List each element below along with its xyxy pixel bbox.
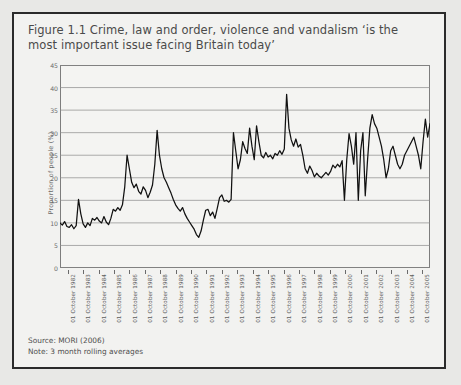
x-axis-tick [299,270,300,274]
x-axis-tick-label: 01 October 1997 [301,274,307,323]
note-line: Note: 3 month rolling averages [28,347,143,358]
x-axis-tick [407,270,408,274]
x-axis-tick [145,270,146,274]
data-series-line [60,94,430,237]
x-axis-tick [376,270,377,274]
x-axis-tick-label: 01 October 1983 [85,274,91,323]
x-axis-tick-label: 01 October 1993 [239,274,245,323]
figure-frame: Figure 1.1 Crime, law and order, violenc… [12,12,446,369]
x-axis-tick [284,270,285,274]
figure-footnotes: Source: MORI (2006) Note: 3 month rollin… [28,336,143,357]
y-axis-title: Proportion of people (%) [47,103,55,243]
chart-plot-area [60,65,430,268]
x-axis-tick [253,270,254,274]
x-axis-tick [391,270,392,274]
x-axis-tick-label: 01 October 1988 [162,274,168,323]
source-line: Source: MORI (2006) [28,336,143,347]
x-axis-tick [222,270,223,274]
x-axis-tick-label: 01 October 2004 [409,274,415,323]
x-axis-tick-label: 01 October 1992 [224,274,230,323]
x-axis-tick-label: 01 October 1986 [132,274,138,323]
x-axis-tick-label: 01 October 1987 [147,274,153,323]
x-axis-tick-label: 01 October 2001 [363,274,369,323]
x-axis-tick-label: 01 October 1990 [193,274,199,323]
x-axis-tick-label: 01 October 2000 [347,274,353,323]
x-axis-tick [176,270,177,274]
x-axis-tick [206,270,207,274]
x-axis-tick-label: 01 October 1985 [116,274,122,323]
x-axis-tick-label: 01 October 1994 [255,274,261,323]
x-axis-tick-label: 01 October 1995 [270,274,276,323]
x-axis-tick [268,270,269,274]
x-axis-tick-labels: 01 October 198201 October 198301 October… [60,270,430,336]
x-axis-tick [330,270,331,274]
x-axis-tick-label: 01 October 1991 [209,274,215,323]
x-axis-tick-label: 01 October 1982 [70,274,76,323]
x-axis-tick-label: 01 October 1984 [101,274,107,323]
x-axis-tick-label: 01 October 2003 [394,274,400,323]
x-axis-tick [314,270,315,274]
x-axis-tick [114,270,115,274]
chart-svg [60,65,430,268]
figure-title: Figure 1.1 Crime, law and order, violenc… [28,23,430,53]
x-axis-tick [68,270,69,274]
x-axis-tick [99,270,100,274]
x-axis-tick-label: 01 October 2002 [378,274,384,323]
x-axis-tick-label: 01 October 1998 [317,274,323,323]
x-axis-tick [83,270,84,274]
x-axis-tick-label: 01 October 1999 [332,274,338,323]
x-axis-tick-label: 01 October 2005 [424,274,430,323]
x-axis-tick-label: 01 October 1996 [286,274,292,323]
gridlines [60,65,430,268]
x-axis-tick-label: 01 October 1989 [178,274,184,323]
x-axis-tick [191,270,192,274]
x-axis-tick [129,270,130,274]
y-axis-title-wrap: Proportion of people (%) [24,65,46,268]
x-axis-tick [361,270,362,274]
